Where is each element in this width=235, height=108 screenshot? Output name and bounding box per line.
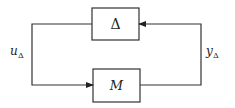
u-delta-wire [32,24,93,85]
u-delta-sub: Δ [18,51,24,60]
y-delta-sub: Δ [213,51,219,60]
u-delta-label: u Δ [10,44,24,60]
y-delta-label: y Δ [205,44,219,60]
m-block-label: M [109,78,124,93]
y-delta-wire [139,24,201,85]
feedback-diagram: Δ M u Δ y Δ [0,0,235,108]
u-delta-base: u [10,44,18,58]
y-delta-base: y [205,44,213,58]
delta-block: Δ [92,8,139,40]
m-block: M [93,69,140,102]
delta-block-label: Δ [110,16,120,32]
